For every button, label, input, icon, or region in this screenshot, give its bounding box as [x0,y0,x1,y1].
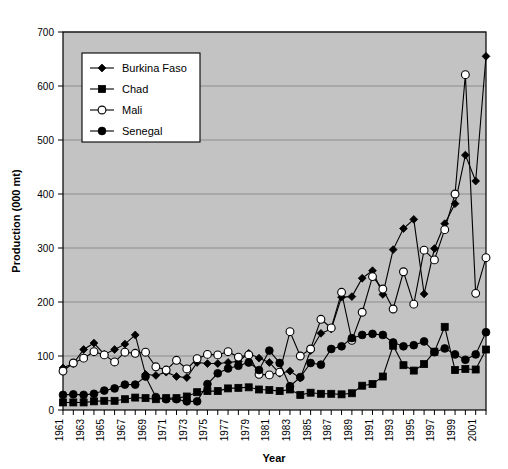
x-axis-tick-label: 1975 [198,419,209,442]
data-point-marker [224,348,232,356]
x-axis-tick-label: 1997 [425,419,436,442]
data-point-marker [472,350,480,358]
y-axis-tick-label: 400 [37,189,54,200]
data-point-marker [389,305,397,313]
data-point-marker [59,367,67,375]
data-point-marker [162,366,170,374]
data-point-marker [286,328,294,336]
data-point-marker [69,390,77,398]
data-point-marker [255,366,263,374]
x-axis-tick-label: 1961 [54,419,65,442]
data-point-marker [421,361,428,368]
x-axis-tick-label: 1989 [343,419,354,442]
x-axis-tick-label: 1993 [384,419,395,442]
legend-marker-filled-circle-icon [98,127,106,135]
data-point-marker [234,353,242,361]
legend-label: Senegal [122,125,162,137]
data-point-marker [111,358,119,366]
data-point-marker [193,397,201,405]
data-point-marker [338,288,346,296]
x-axis-tick-label: 1963 [75,419,86,442]
data-point-marker [420,246,428,254]
data-point-marker [131,381,139,389]
data-point-marker [461,356,469,364]
data-point-marker [451,190,459,198]
data-point-marker [451,350,459,358]
data-point-marker [245,384,252,391]
data-point-marker [472,289,480,297]
data-point-marker [214,351,222,359]
production-line-chart: 0100200300400500600700 19611963196519671… [0,0,508,469]
data-point-marker [369,381,376,388]
data-point-marker [410,367,417,374]
data-point-marker [90,390,98,398]
x-axis-tick-label: 1985 [302,419,313,442]
data-point-marker [90,348,98,356]
data-point-marker [214,369,222,377]
data-point-marker [307,359,315,367]
y-axis-tick-label: 300 [37,243,54,254]
data-point-marker [101,397,108,404]
data-point-marker [225,385,232,392]
x-axis-tick-labels: 1961196319651967196919711973197519771979… [54,419,478,442]
data-point-marker [70,399,77,406]
data-point-marker [296,373,304,381]
data-point-marker [348,390,355,397]
data-point-marker [234,362,242,370]
x-axis-tick-label: 1991 [364,419,375,442]
legend-label: Chad [122,83,148,95]
data-point-marker [317,315,325,323]
data-point-marker [173,395,181,403]
x-axis-tick-label: 1981 [260,419,271,442]
data-point-marker [379,285,387,293]
data-point-marker [100,387,108,395]
x-axis-tick-label: 1969 [137,419,148,442]
data-point-marker [358,331,366,339]
legend-label: Burkina Faso [122,62,187,74]
data-point-marker [193,355,201,363]
y-axis-tick-label: 700 [37,27,54,38]
data-point-marker [90,398,97,405]
data-point-marker [462,365,469,372]
data-point-marker [80,391,88,399]
data-point-marker [307,345,315,353]
data-point-marker [410,300,418,308]
y-axis-tick-label: 500 [37,135,54,146]
x-axis-tick-label: 1987 [322,419,333,442]
data-point-marker [482,254,490,262]
data-point-marker [307,389,314,396]
data-point-marker [183,397,191,405]
data-point-marker [379,331,387,339]
x-axis-tick-label: 1979 [240,419,251,442]
data-point-marker [461,71,469,79]
data-point-marker [256,386,263,393]
data-point-marker [296,352,304,360]
data-point-marker [452,367,459,374]
data-point-marker [173,356,181,364]
data-point-marker [224,365,232,373]
data-point-marker [389,339,397,347]
data-point-marker [80,354,88,362]
x-axis-tick-label: 1971 [157,419,168,442]
data-point-marker [265,347,273,355]
data-point-marker [132,394,139,401]
data-point-marker [369,330,377,338]
data-point-marker [338,391,345,398]
x-axis-title: Year [262,452,286,464]
data-point-marker [472,366,479,373]
data-point-marker [121,396,128,403]
y-axis-tick-label: 200 [37,297,54,308]
y-axis-tick-label: 100 [37,351,54,362]
data-point-marker [420,338,428,346]
data-point-marker [327,324,335,332]
data-point-marker [441,226,449,234]
data-point-marker [121,348,129,356]
data-point-marker [152,363,160,371]
data-point-marker [359,382,366,389]
data-point-marker [142,395,149,402]
data-point-marker [194,389,201,396]
x-axis-tick-label: 1977 [219,419,230,442]
data-point-marker [410,341,418,349]
data-point-marker [152,393,160,401]
data-point-marker [431,348,439,356]
